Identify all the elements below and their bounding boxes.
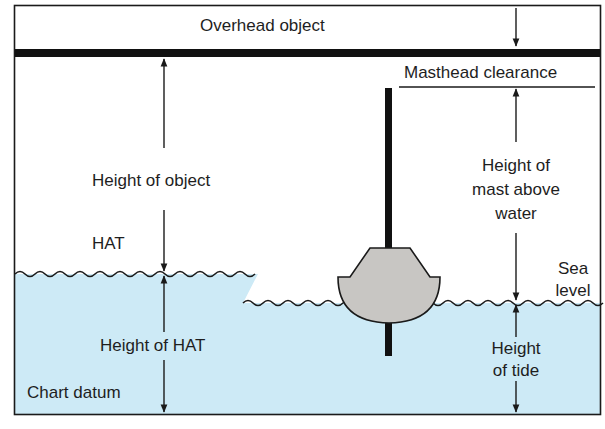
label-height-of-mast-line1: Height of [456, 154, 576, 178]
label-sea-level: Sea level [550, 258, 596, 302]
label-height-of-mast: Height of mast above water [456, 154, 576, 226]
label-sea-level-line2: level [550, 280, 596, 302]
label-height-of-hat: Height of HAT [100, 336, 206, 356]
label-hat: HAT [92, 234, 125, 254]
label-height-of-tide-line2: of tide [476, 360, 556, 382]
overhead-object-bar [15, 49, 600, 57]
label-height-of-mast-line3: water [456, 202, 576, 226]
label-height-of-object: Height of object [92, 171, 210, 191]
boat-hull [338, 248, 440, 323]
label-height-of-mast-line2: mast above [456, 178, 576, 202]
label-height-of-tide-line1: Height [476, 338, 556, 360]
label-masthead-clearance: Masthead clearance [404, 63, 557, 83]
label-chart-datum: Chart datum [27, 383, 121, 403]
label-height-of-tide: Height of tide [476, 338, 556, 382]
label-sea-level-line1: Sea [550, 258, 596, 280]
label-overhead-object: Overhead object [200, 16, 325, 36]
